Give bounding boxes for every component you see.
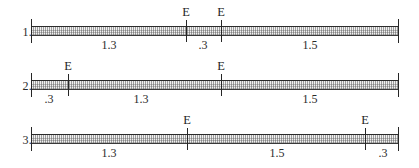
segment-length-label: .3 bbox=[361, 147, 405, 160]
event-marker-label: E bbox=[58, 60, 78, 73]
event-marker-label: E bbox=[211, 6, 231, 19]
row-number-label: 3. bbox=[10, 134, 32, 146]
segment-length-label: .3 bbox=[181, 39, 225, 52]
bar-start-cap bbox=[31, 127, 32, 151]
measure-bar bbox=[31, 26, 399, 36]
event-tick bbox=[221, 74, 222, 96]
segment-length-label: 1.3 bbox=[87, 39, 131, 52]
segment-length-label: .3 bbox=[27, 93, 71, 106]
bar-start-cap bbox=[31, 19, 32, 43]
event-marker-label: E bbox=[211, 60, 231, 73]
measure-bar bbox=[31, 134, 399, 144]
segment-length-label: 1.3 bbox=[87, 147, 131, 160]
event-marker-label: E bbox=[176, 6, 196, 19]
segment-length-label: 1.5 bbox=[288, 93, 332, 106]
diagram-row: 2. E E .3 1.3 1.5 bbox=[0, 60, 419, 116]
event-marker-label: E bbox=[355, 114, 375, 127]
segment-length-label: 1.5 bbox=[255, 147, 299, 160]
segment-length-label: 1.3 bbox=[119, 93, 163, 106]
event-marker-label: E bbox=[177, 114, 197, 127]
row-number-label: 2. bbox=[10, 80, 32, 92]
segment-diagram: 1. E E 1.3 .3 1.5 2. E E .3 1.3 1.5 3. E… bbox=[0, 0, 419, 168]
event-tick bbox=[187, 128, 188, 150]
segment-length-label: 1.5 bbox=[288, 39, 332, 52]
diagram-row: 1. E E 1.3 .3 1.5 bbox=[0, 6, 419, 62]
bar-end-cap bbox=[398, 73, 399, 97]
row-number-label: 1. bbox=[10, 26, 32, 38]
diagram-row: 3. E E 1.3 1.5 .3 bbox=[0, 114, 419, 168]
measure-bar bbox=[31, 80, 399, 90]
bar-end-cap bbox=[398, 19, 399, 43]
